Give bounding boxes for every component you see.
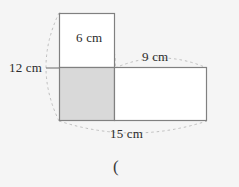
dimension-label-right-width: 9 cm	[142, 50, 168, 63]
shaded-square	[60, 68, 115, 121]
geometry-figure: 6 cm 12 cm 9 cm 15 cm (	[0, 0, 239, 187]
dimension-label-left-height: 12 cm	[9, 61, 42, 74]
figure-canvas	[0, 0, 239, 187]
left-height-arc	[46, 13, 59, 121]
dimension-label-top-width: 6 cm	[76, 31, 102, 44]
dimension-label-bottom-width: 15 cm	[110, 127, 143, 140]
right-rectangle	[115, 68, 207, 121]
trailing-parenthesis: (	[113, 158, 119, 175]
